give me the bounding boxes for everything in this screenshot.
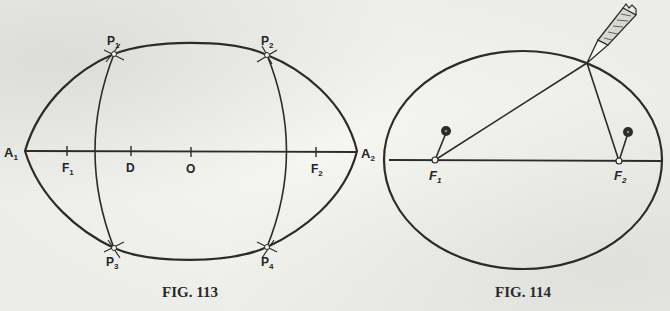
caption-fig-113: FIG. 113: [162, 284, 218, 300]
label-p1: P1: [107, 34, 120, 50]
label-f1: F1: [62, 161, 74, 177]
figures-canvas: A1 A2 F1 D O F2 P1 P2 P3 P4 FIG. 113: [0, 0, 670, 311]
label-o: O: [186, 162, 195, 176]
pin-stem-f2: [619, 133, 628, 161]
label-f2-114: F2: [614, 168, 627, 185]
pencil-icon: [587, 4, 636, 63]
label-d: D: [126, 161, 135, 175]
figure-113: A1 A2 F1 D O F2 P1 P2 P3 P4 FIG. 113: [4, 34, 375, 300]
focus-f2-circle: [616, 158, 622, 164]
label-a1: A1: [4, 145, 18, 162]
caption-fig-114: FIG. 114: [495, 284, 551, 300]
label-f1-114: F1: [429, 168, 442, 185]
scanned-page: A1 A2 F1 D O F2 P1 P2 P3 P4 FIG. 113: [0, 0, 670, 311]
label-f2: F2: [311, 162, 323, 178]
figure-114: F1 F2 FIG. 114: [384, 4, 663, 300]
label-p3: P3: [106, 255, 119, 271]
label-p2: P2: [261, 34, 274, 50]
label-a2: A2: [361, 146, 375, 163]
label-p4: P4: [261, 255, 274, 271]
string-f1: [435, 63, 587, 160]
focus-f1-circle: [432, 157, 438, 163]
